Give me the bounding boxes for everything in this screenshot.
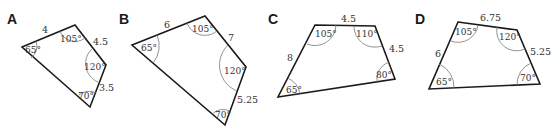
angle-label: 65° [436, 77, 452, 87]
angle-label: 120° [84, 62, 106, 72]
side-length: 4.5 [93, 36, 108, 47]
angle-label: 70° [520, 73, 536, 83]
side-length: 7 [228, 32, 234, 43]
angle-label: 105° [60, 34, 82, 44]
figure-a: A 4 4.5 3.5 65° 105° 120° 70° [7, 11, 114, 107]
side-length: 4 [42, 24, 48, 35]
side-length: 6 [164, 19, 170, 30]
angle-label: 65° [286, 85, 302, 95]
side-length: 6 [435, 48, 441, 59]
angle-label: 65° [141, 43, 157, 53]
angle-label: 120° [499, 32, 521, 42]
figure-label: C [268, 11, 278, 27]
side-length: 8 [287, 52, 293, 63]
figure-label: B [119, 11, 129, 27]
side-length: 5.25 [237, 94, 258, 105]
angle-label: 110° [356, 29, 378, 39]
angle-label: 105° [315, 29, 337, 39]
angle-label: 70° [78, 91, 94, 101]
side-length: 6.75 [480, 12, 501, 23]
angle-label: 70° [215, 110, 231, 120]
angle-label: 65° [25, 45, 41, 55]
side-length: 3.5 [99, 82, 114, 93]
angle-label: 120° [224, 66, 246, 76]
figure-c: C 4.5 8 4.5 105° 110° 65° 80° [268, 11, 404, 97]
figure-b: B 6 7 5.25 65° 105° 120° 70° [119, 11, 258, 125]
side-length: 4.5 [389, 43, 404, 54]
angle-label: 105° [455, 27, 477, 37]
quadrilaterals-diagram: A 4 4.5 3.5 65° 105° 120° 70° B 6 7 5.25… [0, 0, 557, 128]
figure-label: A [7, 11, 17, 27]
figure-d: D 6.75 6 5.25 105° 120° 65° 70° [415, 11, 551, 89]
side-length: 5.25 [530, 46, 551, 57]
angle-label: 105° [192, 24, 214, 34]
angle-label: 80° [376, 70, 392, 80]
side-length: 4.5 [341, 13, 356, 24]
figure-label: D [415, 11, 425, 27]
